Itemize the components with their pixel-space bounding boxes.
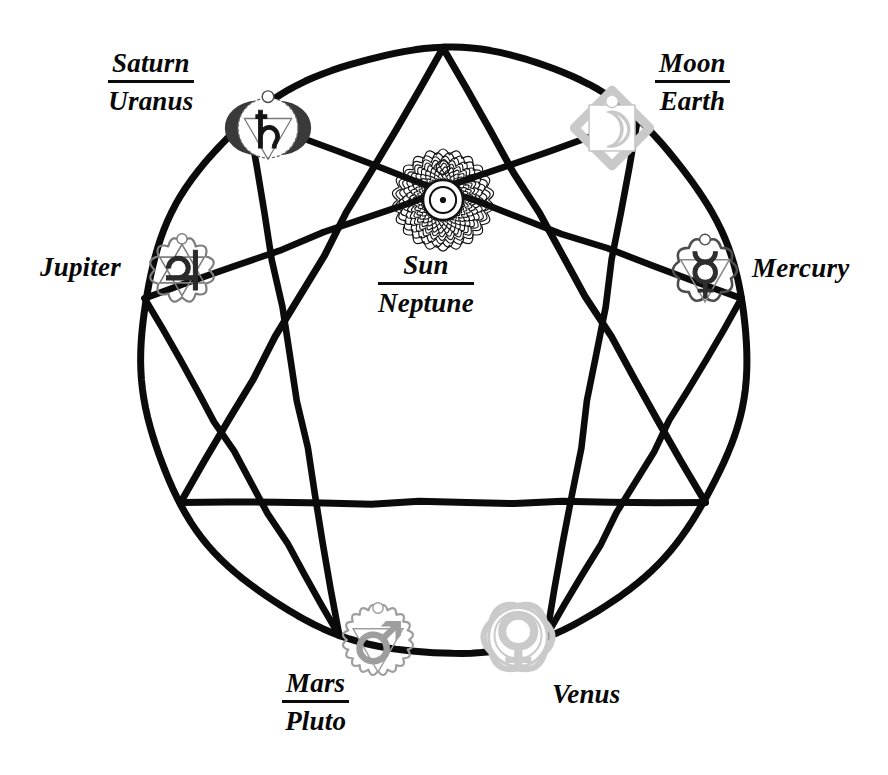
label-earth: Earth [655,83,730,116]
label-sun: Sun [378,250,474,285]
label-venus: Venus [552,679,621,709]
label-mercury: Mercury [752,253,849,283]
label-moon-earth: Moon Earth [655,48,730,116]
planet-glyph: ♃ [158,239,207,303]
enneagram-diagram: ♄☽♃☿♂♀ Saturn Uranus Moon Earth Jupiter … [0,0,888,775]
node-saturn[interactable]: ♄ [226,91,310,160]
label-mars-pluto: Mars Pluto [282,668,349,736]
planet-glyph: ♂ [352,610,404,677]
label-jupiter: Jupiter [40,252,121,282]
planet-glyph: ☽ [590,102,634,159]
planet-glyph: ☿ [688,241,722,305]
label-sun-neptune: Sun Neptune [378,250,474,318]
label-moon: Moon [655,48,730,83]
node-sun[interactable] [392,149,493,251]
node-jupiter[interactable]: ♃ [150,234,213,303]
label-neptune: Neptune [378,285,474,318]
label-pluto: Pluto [282,703,349,736]
label-mars: Mars [282,668,349,703]
sun-dot [440,197,446,203]
node-venus[interactable]: ♀ [484,600,553,678]
label-uranus: Uranus [108,83,194,116]
label-saturn: Saturn [108,48,194,83]
enneagram-node-glyphs: ♄☽♃☿♂♀ [150,90,737,678]
label-saturn-uranus: Saturn Uranus [108,48,194,116]
planet-glyph: ♀ [493,600,542,678]
node-mars[interactable]: ♂ [343,603,413,677]
planet-glyph: ♄ [245,100,291,160]
